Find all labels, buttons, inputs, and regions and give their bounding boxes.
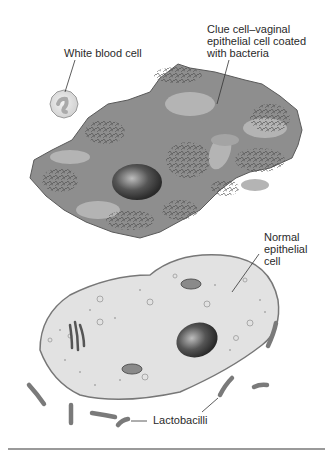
label-normal-epithelial-cell: Normal epithelial cell — [264, 231, 307, 267]
mitochondrion — [122, 364, 142, 374]
label-lactobacilli: Lactobacilli — [153, 414, 207, 426]
mitochondrion — [181, 279, 201, 289]
clue-cell-nucleus — [112, 164, 162, 200]
white-blood-cell — [50, 90, 78, 118]
diagram-canvas — [0, 0, 328, 453]
clue-cell — [30, 64, 302, 238]
label-clue-cell: Clue cell–vaginal epithelial cell coated… — [207, 23, 306, 59]
label-white-blood-cell: White blood cell — [64, 47, 142, 59]
cytoplasm-patch — [165, 92, 215, 116]
